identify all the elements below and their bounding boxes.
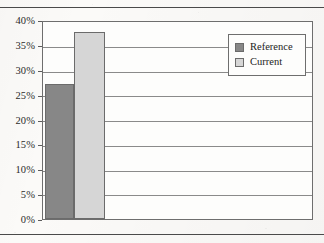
y-axis-label-5: 5%	[0, 190, 35, 201]
bar-current	[74, 32, 105, 219]
legend-label-reference: Reference	[250, 42, 293, 53]
y-axis-label-10: 10%	[0, 165, 35, 176]
y-axis-label-40: 40%	[0, 16, 35, 27]
y-axis-label-35: 35%	[0, 41, 35, 52]
scan-speckle	[198, 12, 199, 13]
scan-speckle	[14, 232, 16, 233]
bar-reference-fill	[46, 85, 73, 218]
legend-label-current: Current	[250, 57, 282, 68]
bar-current-fill	[75, 33, 104, 218]
y-axis-label-20: 20%	[0, 115, 35, 126]
y-axis-label-15: 15%	[0, 140, 35, 151]
y-axis-label-0: 0%	[0, 215, 35, 226]
bar-chart: 40% 35% 30% 25% 20% 15% 10% 5% 0%	[0, 0, 324, 243]
y-axis-label-30: 30%	[0, 66, 35, 77]
legend-swatch-reference	[235, 43, 244, 52]
bar-reference	[45, 84, 74, 219]
scan-speckle	[92, 4, 93, 5]
y-axis-tick-0	[38, 220, 42, 221]
legend-item-current: Current	[235, 55, 299, 70]
legend-swatch-current	[235, 58, 244, 67]
chart-legend: Reference Current	[228, 34, 306, 76]
legend-item-reference: Reference	[235, 40, 299, 55]
y-axis-label-25: 25%	[0, 90, 35, 101]
scan-speckle	[265, 228, 267, 229]
